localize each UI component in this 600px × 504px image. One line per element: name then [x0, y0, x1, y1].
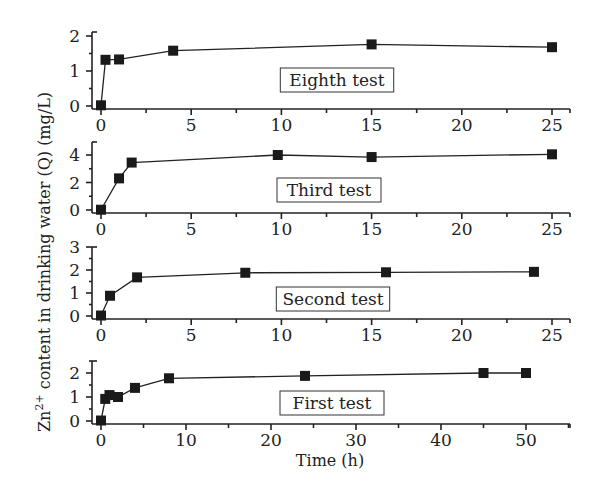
data-point-marker [101, 55, 111, 65]
y-tick-label: 1 [69, 61, 80, 81]
panel-label: Eighth test [289, 70, 384, 90]
x-tick-label: 15 [361, 115, 383, 135]
x-tick-label: 40 [430, 430, 452, 450]
panel-third-test: 0510152025024Third test [69, 142, 570, 239]
data-point-marker [381, 267, 391, 277]
data-point-marker [168, 46, 178, 56]
panel-first-test: 01020304050012First test [69, 361, 570, 450]
panel-eighth-test: 0510152025012Eighth test [69, 26, 570, 135]
data-point-marker [96, 100, 106, 110]
y-axis-title: Zn2+ content in drinking water (Q) (mg/L… [33, 92, 54, 432]
data-point-marker [240, 268, 250, 278]
x-tick-label: 10 [175, 430, 197, 450]
data-point-marker [96, 416, 106, 426]
x-tick-label: 30 [345, 430, 367, 450]
axes [86, 247, 570, 325]
y-tick-label: 4 [69, 145, 80, 165]
data-point-marker [479, 368, 489, 378]
y-tick-label: 0 [69, 411, 80, 431]
x-tick-label: 10 [271, 325, 293, 345]
x-tick-label: 50 [515, 430, 537, 450]
data-point-marker [127, 158, 137, 168]
data-point-marker [96, 311, 106, 321]
y-axis-title-sup: 2+ [33, 394, 46, 410]
x-axis-title: Time (h) [296, 451, 364, 470]
x-tick-label: 25 [541, 115, 563, 135]
x-tick-label: 5 [186, 219, 197, 239]
panel-label: Second test [282, 289, 383, 309]
data-point-marker [521, 368, 531, 378]
panels: 0510152025012Eighth test0510152025024Thi… [69, 26, 570, 450]
x-tick-label: 0 [96, 430, 107, 450]
data-point-marker [164, 373, 174, 383]
data-point-marker [300, 371, 310, 381]
x-tick-label: 5 [186, 325, 197, 345]
y-tick-label: 2 [69, 363, 80, 383]
x-tick-label: 20 [260, 430, 282, 450]
y-tick-label: 2 [69, 173, 80, 193]
panel-second-test: 05101520250123Second test [69, 237, 570, 345]
data-point-marker [273, 150, 283, 160]
data-point-marker [367, 152, 377, 162]
x-tick-label: 20 [451, 325, 473, 345]
data-point-marker [114, 54, 124, 64]
x-tick-label: 20 [451, 115, 473, 135]
x-tick-label: 25 [541, 219, 563, 239]
x-tick-label: 10 [271, 115, 293, 135]
data-point-marker [547, 149, 557, 159]
x-tick-label: 15 [361, 219, 383, 239]
panel-label: Third test [287, 180, 372, 200]
x-tick-label: 0 [96, 115, 107, 135]
data-point-marker [114, 173, 124, 183]
data-point-marker [367, 39, 377, 49]
y-tick-label: 3 [69, 237, 80, 257]
y-axis-title-base: Zn [35, 411, 54, 432]
stacked-line-chart: 0510152025012Eighth test0510152025024Thi… [0, 0, 600, 504]
data-point-marker [529, 267, 539, 277]
data-point-marker [132, 272, 142, 282]
data-point-marker [96, 205, 106, 215]
x-tick-label: 5 [186, 115, 197, 135]
x-tick-label: 10 [271, 219, 293, 239]
x-tick-label: 20 [451, 219, 473, 239]
y-tick-label: 2 [69, 260, 80, 280]
data-point-marker [113, 392, 123, 402]
x-tick-label: 0 [96, 325, 107, 345]
panel-label: First test [293, 393, 372, 413]
x-tick-label: 0 [96, 219, 107, 239]
y-tick-label: 1 [69, 283, 80, 303]
data-point-marker [105, 291, 115, 301]
x-tick-label: 15 [361, 325, 383, 345]
x-tick-label: 25 [541, 325, 563, 345]
y-axis-title-rest: content in drinking water (Q) (mg/L) [35, 92, 54, 394]
y-tick-label: 2 [69, 26, 80, 46]
y-tick-label: 0 [69, 96, 80, 116]
data-point-marker [547, 42, 557, 52]
y-tick-label: 0 [69, 306, 80, 326]
data-point-marker [130, 383, 140, 393]
y-tick-label: 0 [69, 200, 80, 220]
y-tick-label: 1 [69, 387, 80, 407]
